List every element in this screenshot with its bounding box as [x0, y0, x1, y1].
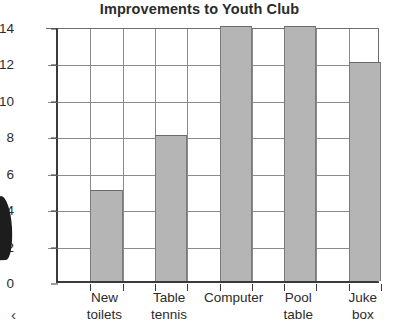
gridline-vertical	[187, 29, 188, 281]
y-axis-tick-mark	[51, 211, 58, 212]
gridline-horizontal	[48, 138, 378, 139]
y-axis-tick-mark	[51, 29, 58, 30]
chart-title: Improvements to Youth Club	[0, 1, 399, 17]
gridline-horizontal	[48, 65, 378, 66]
y-axis-tick-label: 8	[0, 130, 14, 145]
gridline-horizontal	[48, 175, 378, 176]
y-axis-tick-mark	[51, 174, 58, 175]
x-axis-label-line: toilets	[87, 306, 122, 323]
x-axis-tick-mark	[381, 284, 382, 291]
gridline-vertical	[316, 29, 317, 281]
x-axis-label-line: New	[87, 289, 122, 306]
x-axis-label-line: Computer	[204, 289, 263, 306]
x-axis-category-label: Tabletennis	[151, 289, 187, 323]
y-axis-tick-mark	[51, 284, 58, 285]
y-axis-tick-label: 6	[0, 166, 14, 181]
y-axis-tick-label: 14	[0, 21, 14, 36]
y-axis-tick-label: 10	[0, 93, 14, 108]
x-axis-category-label: Newtoilets	[87, 289, 122, 323]
x-axis-label-line: tennis	[151, 306, 187, 323]
x-axis-label-line: table	[284, 306, 313, 323]
y-axis-tick-mark	[51, 65, 58, 66]
x-axis-label-line: Table	[151, 289, 187, 306]
y-axis-tick-mark	[51, 138, 58, 139]
x-axis-label-line: Pool	[284, 289, 313, 306]
x-axis-category-label: Computer	[204, 289, 263, 306]
gridline-vertical	[252, 29, 253, 281]
x-axis-labels: NewtoiletsTabletennisComputerPooltableJu…	[56, 289, 379, 326]
bar	[220, 26, 252, 281]
bar	[284, 26, 316, 281]
bar	[90, 190, 122, 281]
gridline-vertical	[123, 29, 124, 281]
scan-corner-glyph: ‹	[11, 306, 16, 323]
bar-chart: Improvements to Youth Club 02468101214 N…	[0, 0, 399, 326]
y-axis-tick-mark	[51, 247, 58, 248]
y-axis-tick-label: 0	[0, 276, 14, 291]
plot-area	[56, 28, 379, 283]
y-axis-tick-mark	[51, 101, 58, 102]
gridline-horizontal	[48, 102, 378, 103]
x-axis-label-line: box	[349, 306, 378, 323]
bar	[349, 62, 381, 281]
x-axis-category-label: Pooltable	[284, 289, 313, 323]
y-axis-tick-label: 12	[0, 57, 14, 72]
x-axis-category-label: Jukebox	[349, 289, 378, 323]
bar	[155, 135, 187, 281]
x-axis-label-line: Juke	[349, 289, 378, 306]
